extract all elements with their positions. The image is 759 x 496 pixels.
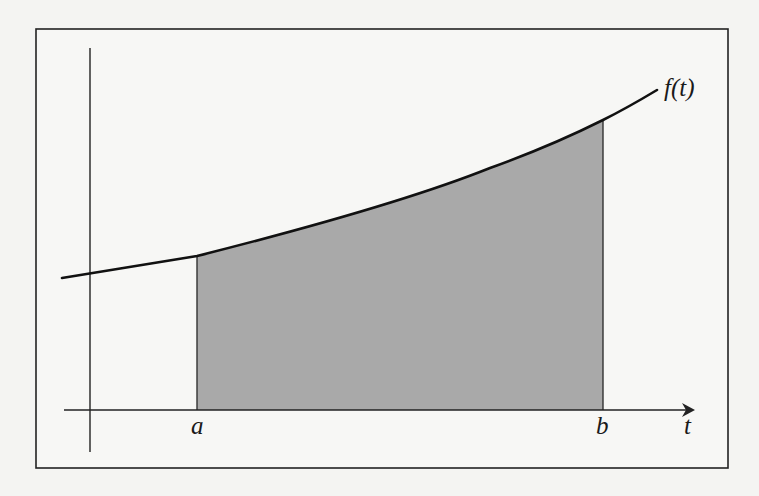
curve-label: f(t) <box>664 74 695 102</box>
upper-limit-label: b <box>596 412 609 439</box>
lower-limit-label: a <box>191 412 204 439</box>
integral-figure: f(t) a b t <box>0 0 759 496</box>
x-axis-label: t <box>684 412 692 439</box>
